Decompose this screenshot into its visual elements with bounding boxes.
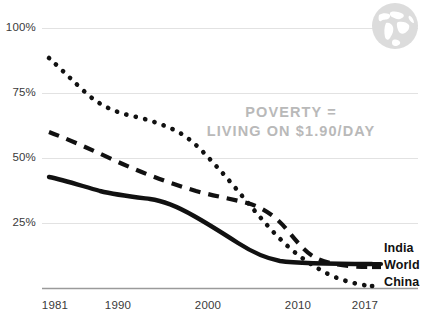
y-tick-100: 100%	[0, 21, 36, 33]
annotation-line-1: POVERTY =	[196, 103, 386, 122]
series-line-china	[49, 58, 372, 286]
series-line-world	[49, 132, 372, 267]
y-tick-25: 25%	[0, 216, 36, 228]
annotation-line-2: LIVING ON $1.90/DAY	[196, 122, 386, 141]
chart-canvas	[0, 0, 428, 325]
x-tick-2017: 2017	[341, 299, 389, 311]
legend-label-world: World	[384, 258, 420, 272]
legend-label-china: China	[384, 275, 419, 289]
x-tick-2000: 2000	[184, 299, 232, 311]
globe-icon	[371, 2, 419, 50]
legend-leader-lines	[372, 264, 381, 286]
poverty-line-chart: 100% 75% 50% 25% 1981 1990 2000 2010 201…	[0, 0, 428, 325]
x-tick-1990: 1990	[94, 299, 142, 311]
y-tick-50: 50%	[0, 151, 36, 163]
y-tick-75: 75%	[0, 86, 36, 98]
series-line-india	[49, 177, 372, 264]
poverty-definition-annotation: POVERTY = LIVING ON $1.90/DAY	[196, 103, 386, 141]
legend-label-india: India	[384, 241, 414, 255]
x-tick-2010: 2010	[274, 299, 322, 311]
x-tick-1981: 1981	[31, 299, 79, 311]
